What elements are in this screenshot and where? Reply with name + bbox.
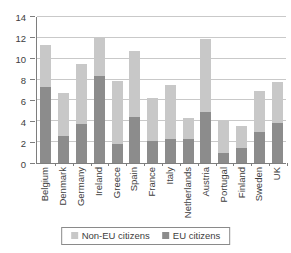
y-tick-label: 0 bbox=[21, 159, 26, 169]
bar-group bbox=[268, 17, 286, 163]
bar-group bbox=[161, 17, 179, 163]
x-tick-label: Spain bbox=[129, 167, 139, 191]
x-label-slot: Sweden bbox=[250, 167, 268, 218]
bar-segment-eu bbox=[40, 87, 51, 163]
y-tick-mark bbox=[30, 142, 35, 143]
bar-segment-non-eu bbox=[112, 81, 123, 144]
y-tick-mark bbox=[30, 37, 35, 38]
y-tick-label: 8 bbox=[21, 75, 26, 85]
legend-label-non-eu: Non-EU citizens bbox=[82, 231, 150, 241]
x-tick-mark bbox=[180, 163, 181, 166]
bar-group bbox=[250, 17, 268, 163]
legend-item-non-eu: Non-EU citizens bbox=[71, 231, 150, 241]
bar-portugal bbox=[218, 121, 229, 163]
bar-group bbox=[108, 17, 126, 163]
x-tick-label: Denmark bbox=[58, 167, 68, 206]
bar-segment-non-eu bbox=[218, 121, 229, 153]
bar-france bbox=[147, 98, 158, 163]
x-tick-label: Ireland bbox=[94, 167, 104, 196]
x-tick-label: Austria bbox=[201, 167, 211, 197]
y-tick-label: 2 bbox=[21, 138, 26, 148]
y-tick-label: 12 bbox=[15, 33, 26, 43]
x-tick-mark bbox=[233, 163, 234, 166]
bar-group bbox=[90, 17, 108, 163]
x-tick-mark bbox=[216, 163, 217, 166]
bar-segment-eu bbox=[254, 132, 265, 164]
x-tick-mark bbox=[198, 163, 199, 166]
legend-item-eu: EU citizens bbox=[162, 231, 221, 241]
x-tick-label: UK bbox=[272, 167, 282, 180]
bar-spain bbox=[129, 51, 140, 163]
bar-segment-eu bbox=[112, 144, 123, 163]
x-label-slot: France bbox=[143, 167, 161, 218]
bar-denmark bbox=[58, 93, 69, 163]
legend-swatch-eu-icon bbox=[162, 232, 169, 239]
x-label-slot: Austria bbox=[197, 167, 215, 218]
bar-germany bbox=[76, 64, 87, 163]
bar-segment-eu bbox=[165, 139, 176, 163]
bar-segment-non-eu bbox=[236, 126, 247, 148]
x-tick-label: Italy bbox=[165, 167, 175, 184]
x-tick-mark bbox=[251, 163, 252, 166]
y-tick-mark bbox=[30, 163, 35, 164]
x-tick-label: Netherlands bbox=[183, 167, 193, 218]
x-tick-mark bbox=[55, 163, 56, 166]
bar-segment-eu bbox=[200, 112, 211, 163]
bar-segment-non-eu bbox=[129, 51, 140, 117]
y-tick-mark bbox=[30, 121, 35, 122]
x-label-slot: Greece bbox=[107, 167, 125, 218]
plot-area bbox=[36, 17, 286, 164]
bar-finland bbox=[236, 126, 247, 163]
bar-segment-eu bbox=[58, 136, 69, 163]
stacked-bar-chart: 02468101214 BelgiumDenmarkGermanyIreland… bbox=[0, 0, 291, 253]
bar-sweden bbox=[254, 91, 265, 163]
x-tick-label: France bbox=[147, 167, 157, 197]
y-tick-mark bbox=[30, 58, 35, 59]
bar-segment-eu bbox=[236, 148, 247, 163]
x-tick-label: Belgium bbox=[40, 167, 50, 201]
y-tick-mark bbox=[30, 79, 35, 80]
x-label-slot: Denmark bbox=[54, 167, 72, 218]
x-label-slot: Portugal bbox=[215, 167, 233, 218]
bar-group bbox=[37, 17, 55, 163]
bar-greece bbox=[112, 81, 123, 163]
x-tick-mark bbox=[91, 163, 92, 166]
x-axis-labels: BelgiumDenmarkGermanyIrelandGreeceSpainF… bbox=[36, 167, 286, 218]
bar-segment-non-eu bbox=[254, 91, 265, 132]
bar-segment-non-eu bbox=[76, 64, 87, 124]
y-tick-label: 6 bbox=[21, 96, 26, 106]
y-axis: 02468101214 bbox=[0, 17, 35, 164]
bar-uk bbox=[272, 82, 283, 163]
bar-segment-eu bbox=[147, 141, 158, 163]
x-tick-label: Finland bbox=[237, 167, 247, 198]
bar-netherlands bbox=[183, 118, 194, 163]
bar-italy bbox=[165, 85, 176, 163]
x-tick-label: Germany bbox=[76, 167, 86, 206]
x-tick-mark bbox=[73, 163, 74, 166]
bars bbox=[37, 17, 286, 163]
y-tick-label: 14 bbox=[15, 12, 26, 22]
x-label-slot: UK bbox=[268, 167, 286, 218]
x-label-slot: Italy bbox=[161, 167, 179, 218]
x-tick-mark bbox=[162, 163, 163, 166]
x-tick-mark bbox=[108, 163, 109, 166]
bar-austria bbox=[200, 39, 211, 163]
bar-belgium bbox=[40, 45, 51, 163]
bar-segment-non-eu bbox=[200, 39, 211, 111]
bar-segment-non-eu bbox=[147, 98, 158, 141]
bar-group bbox=[215, 17, 233, 163]
bar-group bbox=[233, 17, 251, 163]
x-tick-label: Portugal bbox=[219, 167, 229, 202]
y-tick-label: 10 bbox=[15, 54, 26, 64]
bar-segment-non-eu bbox=[58, 93, 69, 136]
x-label-slot: Finland bbox=[232, 167, 250, 218]
x-label-slot: Belgium bbox=[36, 167, 54, 218]
bar-segment-non-eu bbox=[272, 82, 283, 123]
bar-group bbox=[126, 17, 144, 163]
bar-group bbox=[144, 17, 162, 163]
bar-group bbox=[55, 17, 73, 163]
bar-segment-eu bbox=[94, 76, 105, 163]
bar-ireland bbox=[94, 38, 105, 163]
bar-group bbox=[179, 17, 197, 163]
bar-segment-eu bbox=[76, 124, 87, 163]
